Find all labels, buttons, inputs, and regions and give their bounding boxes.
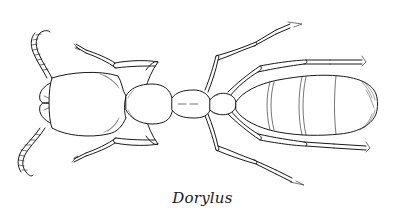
ant-illustration [0,0,397,218]
pronotum [126,84,174,124]
mesothorax [172,90,211,118]
gaster [236,75,378,135]
figure: Dorylus [0,0,397,218]
antenna-top [31,31,52,78]
antenna-bottom [18,128,45,176]
petiole [210,93,236,115]
head [49,72,126,136]
figure-caption: Dorylus [0,189,397,207]
